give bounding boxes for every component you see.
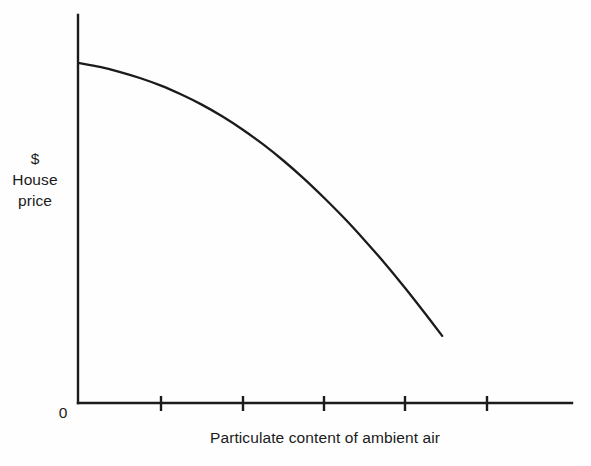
chart-page: $ House price 0 Particulate content of a… bbox=[0, 0, 591, 466]
origin-label: 0 bbox=[52, 404, 74, 422]
y-axis-label-line-price: price bbox=[0, 190, 70, 211]
y-axis-label-line-currency: $ bbox=[0, 148, 70, 169]
house-price-curve bbox=[80, 63, 443, 336]
x-axis-label: Particulate content of ambient air bbox=[78, 429, 572, 447]
y-axis-label: $ House price bbox=[0, 148, 70, 211]
chart-canvas bbox=[0, 0, 591, 466]
y-axis-label-line-house: House bbox=[0, 169, 70, 190]
axes-group bbox=[78, 15, 572, 403]
